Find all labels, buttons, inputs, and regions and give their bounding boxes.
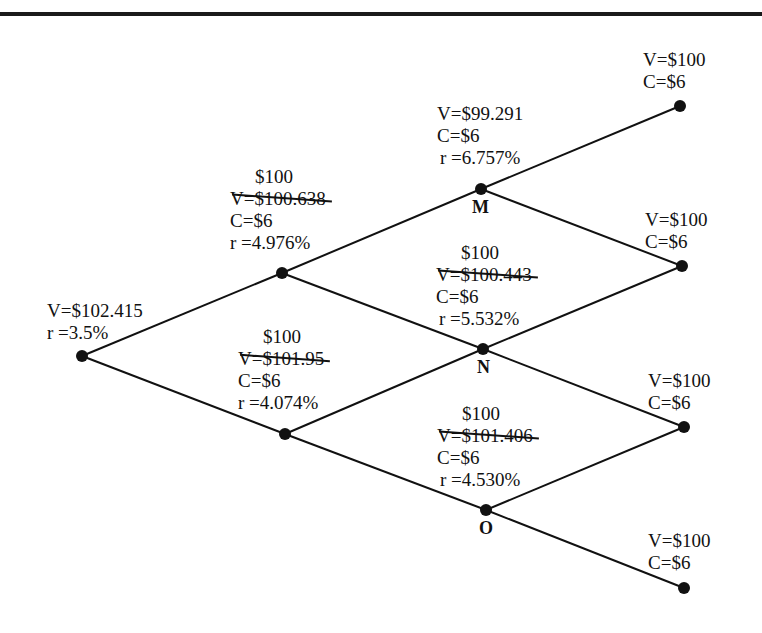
- N-new-value: $100: [436, 242, 532, 264]
- t1-value: V=$100: [643, 49, 705, 71]
- down1-coupon: C=$6: [238, 370, 324, 392]
- t2-coupon: C=$6: [645, 231, 707, 253]
- node-N-dot: [477, 343, 489, 355]
- node-t3-dot: [678, 421, 690, 433]
- down1-label: $100 V=$101.95 C=$6 r =4.074%: [238, 326, 324, 414]
- O-old-value-struck: V=$101.406: [437, 425, 533, 447]
- N-old-value-struck: V=$100.443: [436, 264, 532, 286]
- O-rate: r =4.530%: [437, 469, 533, 491]
- up1-rate: r =4.976%: [230, 232, 326, 254]
- up1-new-value: $100: [230, 166, 326, 188]
- up1-coupon: C=$6: [230, 210, 326, 232]
- node-M-dot: [475, 183, 487, 195]
- node-t1-dot: [674, 100, 686, 112]
- t3-coupon: C=$6: [648, 392, 710, 414]
- node-t2-dot: [676, 260, 688, 272]
- t3-label: V=$100 C=$6: [648, 370, 710, 414]
- t1-coupon: C=$6: [643, 71, 705, 93]
- node-root-dot: [76, 350, 88, 362]
- O-new-value: $100: [437, 403, 533, 425]
- M-value: V=$99.291: [437, 103, 523, 125]
- M-label: V=$99.291 C=$6 r =6.757%: [437, 103, 523, 169]
- N-label: $100 V=$100.443 C=$6 r =5.532%: [436, 242, 532, 330]
- N-rate: r =5.532%: [436, 308, 532, 330]
- t4-coupon: C=$6: [648, 552, 710, 574]
- node-N-letter: N: [477, 358, 490, 376]
- t1-label: V=$100 C=$6: [643, 49, 705, 93]
- up1-label: $100 V=$100.638 C=$6 r =4.976%: [230, 166, 326, 254]
- root-rate: r =3.5%: [47, 322, 143, 344]
- node-t4-dot: [678, 582, 690, 594]
- node-O-letter: O: [479, 519, 493, 537]
- M-rate: r =6.757%: [437, 147, 523, 169]
- up1-old-value-struck: V=$100.638: [230, 188, 326, 210]
- t4-label: V=$100 C=$6: [648, 530, 710, 574]
- t4-value: V=$100: [648, 530, 710, 552]
- O-coupon: C=$6: [437, 447, 533, 469]
- root-label: V=$102.415 r =3.5%: [47, 300, 143, 344]
- down1-rate: r =4.074%: [238, 392, 324, 414]
- node-O-dot: [480, 504, 492, 516]
- M-coupon: C=$6: [437, 125, 523, 147]
- t2-label: V=$100 C=$6: [645, 209, 707, 253]
- O-label: $100 V=$101.406 C=$6 r =4.530%: [437, 403, 533, 491]
- down1-new-value: $100: [238, 326, 324, 348]
- node-down1-dot: [279, 428, 291, 440]
- node-M-letter: M: [472, 198, 489, 216]
- N-coupon: C=$6: [436, 286, 532, 308]
- down1-old-value-struck: V=$101.95: [238, 348, 324, 370]
- root-value: V=$102.415: [47, 300, 143, 322]
- node-up1-dot: [276, 267, 288, 279]
- t3-value: V=$100: [648, 370, 710, 392]
- t2-value: V=$100: [645, 209, 707, 231]
